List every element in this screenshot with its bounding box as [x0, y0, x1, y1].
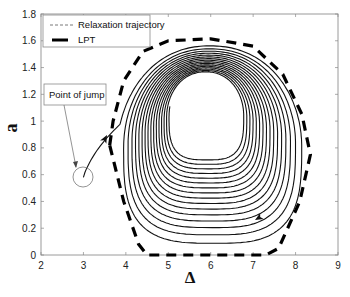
- y-tick-label: 0: [30, 250, 36, 261]
- y-tick-label: 1.4: [22, 62, 36, 73]
- axes-frame: [41, 14, 338, 255]
- y-tick-label: 0.2: [22, 223, 36, 234]
- x-tick-label: 9: [335, 260, 341, 271]
- x-tick-label: 4: [123, 260, 129, 271]
- x-tick-label: 2: [38, 260, 44, 271]
- x-tick-label: 8: [293, 260, 299, 271]
- y-axis-label: a: [1, 124, 21, 133]
- x-tick-label: 5: [166, 260, 172, 271]
- plot-area: [41, 14, 338, 255]
- legend-lpt-label: LPT: [78, 34, 96, 45]
- y-tick-label: 1.8: [22, 9, 36, 20]
- y-tick-label: 0.4: [22, 196, 36, 207]
- phase-plot: 2345678900.20.40.60.811.21.41.61.8 Δ a R…: [0, 0, 350, 297]
- y-tick-label: 0.8: [22, 142, 36, 153]
- annotation-label: Point of jump: [49, 89, 104, 100]
- y-tick-label: 1.2: [22, 89, 36, 100]
- y-tick-label: 1.6: [22, 35, 36, 46]
- x-tick-label: 6: [208, 260, 214, 271]
- x-axis-label: Δ: [185, 268, 196, 287]
- y-tick-label: 0.6: [22, 169, 36, 180]
- legend: Relaxation trajectory LPT: [43, 15, 165, 47]
- x-tick-label: 3: [81, 260, 87, 271]
- x-tick-label: 7: [250, 260, 256, 271]
- y-tick-label: 1: [30, 116, 36, 127]
- legend-relaxation-label: Relaxation trajectory: [78, 19, 165, 30]
